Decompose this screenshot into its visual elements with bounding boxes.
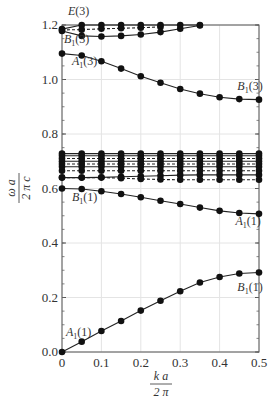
- y-tick-label: 0.8: [42, 126, 58, 141]
- x-label-numerator: k a: [154, 369, 168, 383]
- y-tick-label: 1.2: [42, 17, 58, 32]
- x-tick-label: 0.3: [172, 355, 188, 370]
- annotations: E(3)B1(3)A1(3)B1(3)B1(1)A1(1)B1(1)A1(1): [64, 4, 263, 340]
- y-axis-ticks: 0.00.20.40.60.81.01.2: [42, 17, 59, 359]
- y-axis-label: ω a 2 π c: [4, 173, 33, 203]
- band-label: A1(1): [65, 325, 91, 341]
- band-label: A1(3): [71, 54, 97, 70]
- x-tick-label: 0.4: [211, 355, 228, 370]
- y-label-numerator: ω a: [4, 179, 18, 196]
- x-tick-label: 0.1: [93, 355, 109, 370]
- x-axis-label: k a 2 π: [150, 369, 172, 399]
- x-tick-label: 0.5: [251, 355, 267, 370]
- y-tick-label: 0.2: [42, 290, 58, 305]
- band-label: B1(3): [64, 32, 89, 48]
- y-label-denominator: 2 π c: [19, 176, 33, 200]
- x-axis-ticks: 00.10.20.30.40.5: [59, 355, 267, 370]
- band-label: A1(1): [234, 214, 260, 230]
- y-tick-label: 1.0: [42, 72, 58, 87]
- band-label: B1(1): [237, 280, 262, 296]
- band-structure-chart: 00.10.20.30.40.5 0.00.20.40.60.81.01.2 E…: [0, 0, 275, 404]
- y-tick-label: 0.6: [42, 181, 59, 196]
- x-tick-label: 0: [59, 355, 66, 370]
- band-label: E(3): [67, 4, 89, 18]
- x-label-denominator: 2 π: [153, 385, 169, 399]
- y-tick-label: 0.4: [42, 235, 59, 250]
- x-tick-label: 0.2: [133, 355, 149, 370]
- band-label: B1(3): [237, 79, 262, 95]
- band-label: B1(1): [72, 190, 97, 206]
- series-a1-1-lower: [59, 269, 263, 355]
- y-tick-label: 0.0: [42, 344, 58, 359]
